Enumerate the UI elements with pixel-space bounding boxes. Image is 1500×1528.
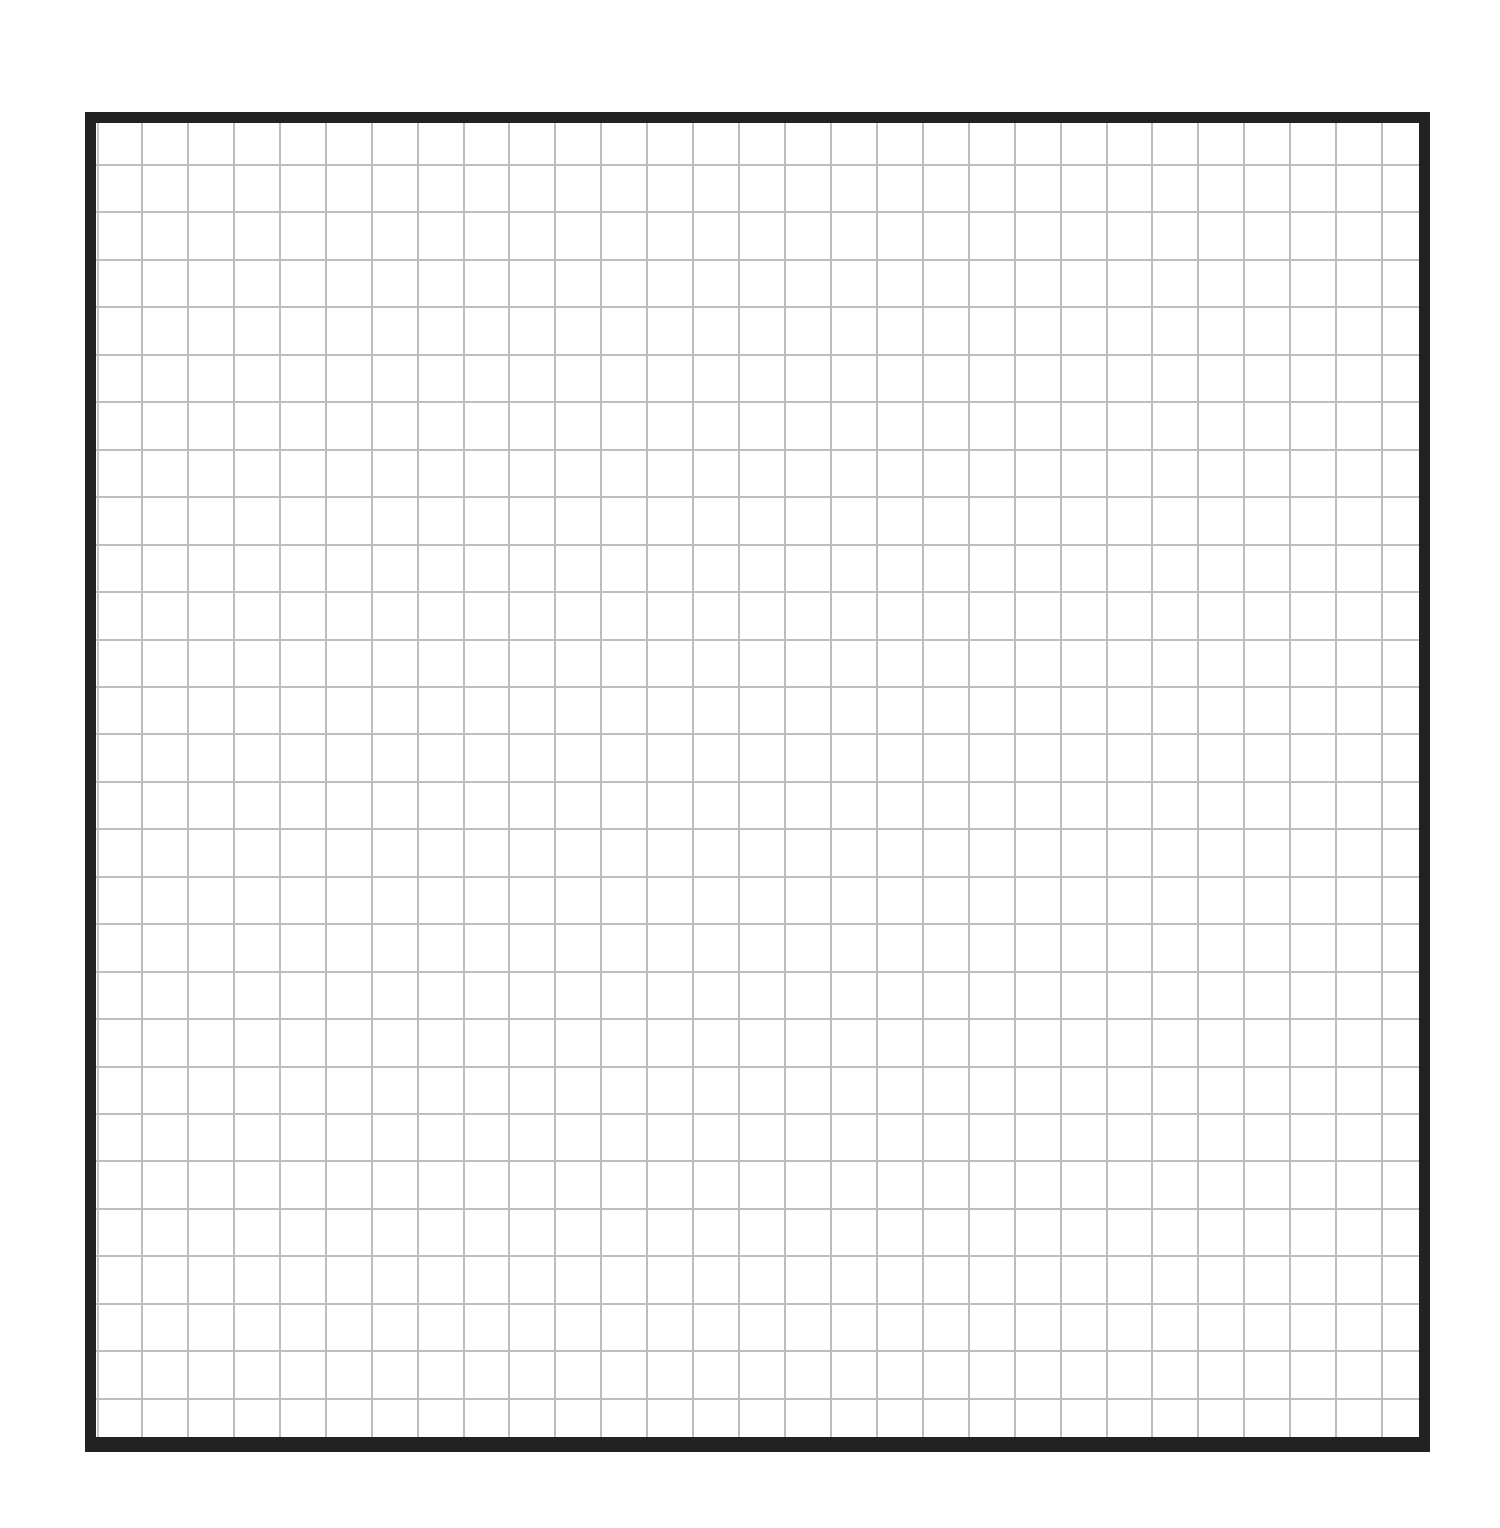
- graph-paper-sheet: [0, 0, 1500, 1528]
- grid-frame-border: [85, 112, 1430, 1452]
